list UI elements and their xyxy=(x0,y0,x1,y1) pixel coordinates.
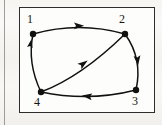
node-label-1: 1 xyxy=(27,13,33,25)
figure-page: 1 2 3 4 xyxy=(0,0,162,125)
node-label-4: 4 xyxy=(34,96,40,108)
edge-2-3 xyxy=(125,34,138,90)
node-2[interactable] xyxy=(122,31,128,37)
node-3[interactable] xyxy=(133,87,139,93)
node-label-3: 3 xyxy=(132,95,138,107)
node-1[interactable] xyxy=(30,31,36,37)
arrowhead-2-3 xyxy=(134,55,142,66)
node-label-2: 2 xyxy=(119,13,125,25)
page-margin-rule xyxy=(4,0,5,125)
arrowhead-4-2 xyxy=(77,58,89,69)
edge-4-1 xyxy=(31,34,41,92)
edge-1-2 xyxy=(33,28,125,35)
